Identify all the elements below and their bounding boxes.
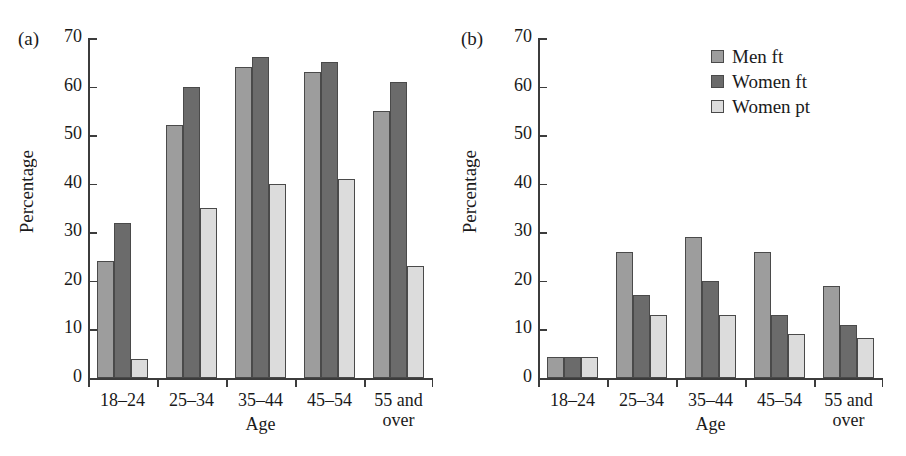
panel-a-y-tick-label: 50 [42, 123, 82, 144]
bar-women-ft [390, 82, 407, 378]
panel-a-y-tick-label: 60 [42, 75, 82, 96]
panel-b-y-tick-label: 70 [492, 26, 532, 47]
panel-b-plot-area: 01020304050607018–2425–3435–4445–5455 an… [453, 0, 906, 456]
bar-women-ft [114, 223, 131, 378]
legend-swatch-icon [711, 75, 724, 88]
panel-a-plot-area: 01020304050607018–2425–3435–4445–5455 an… [0, 0, 453, 456]
bar-women-pt [857, 338, 874, 378]
panel-b-x-tick [745, 380, 747, 387]
legend-item-women-pt: Women pt [711, 94, 810, 119]
panel-a-x-axis-label: Age [201, 414, 321, 435]
bar-women-ft [321, 62, 338, 378]
panel-b-y-tick-label: 60 [492, 75, 532, 96]
panel-b-x-tick [882, 380, 884, 387]
bar-men-ft [754, 252, 771, 378]
panel-a: (a) Percentage 01020304050607018–2425–34… [0, 0, 453, 456]
panel-a-y-tick [90, 38, 97, 40]
legend-item-men-ft: Men ft [711, 44, 810, 69]
panel-b-y-tick-label: 50 [492, 123, 532, 144]
bar-men-ft [304, 72, 321, 378]
bar-men-ft [823, 286, 840, 378]
legend: Men ftWomen ftWomen pt [711, 44, 810, 119]
panel-b-y-tick-label: 0 [492, 366, 532, 387]
panel-b-y-axis [538, 38, 540, 380]
panel-b-x-tick [676, 380, 678, 387]
panel-b-y-tick-label: 40 [492, 172, 532, 193]
bar-women-pt [200, 208, 217, 378]
panel-a-y-tick [90, 232, 97, 234]
bar-men-ft [235, 67, 252, 378]
bar-women-ft [771, 315, 788, 378]
legend-label: Men ft [732, 46, 783, 68]
panel-a-y-tick-label: 40 [42, 172, 82, 193]
panel-b-y-tick [540, 232, 547, 234]
bar-men-ft [685, 237, 702, 378]
bar-men-ft [616, 252, 633, 378]
panel-b-x-tick-label: 55 andover [797, 390, 901, 430]
bar-women-ft [633, 295, 650, 378]
figure-root: (a) Percentage 01020304050607018–2425–34… [0, 0, 906, 456]
bar-women-pt [269, 184, 286, 378]
panel-b-y-tick-label: 10 [492, 317, 532, 338]
panel-a-y-tick [90, 184, 97, 186]
panel-a-y-tick [90, 87, 97, 89]
bar-women-pt [650, 315, 667, 378]
legend-label: Women ft [732, 71, 807, 93]
panel-a-y-tick-label: 20 [42, 269, 82, 290]
panel-a-x-tick-label: 55 andover [347, 390, 451, 430]
panel-b: (b) Percentage 01020304050607018–2425–34… [453, 0, 906, 456]
panel-a-x-tick [432, 380, 434, 387]
bar-women-ft [252, 57, 269, 378]
legend-item-women-ft: Women ft [711, 69, 810, 94]
bar-men-ft [97, 261, 114, 378]
panel-a-y-tick-label: 0 [42, 366, 82, 387]
bar-women-pt [581, 357, 598, 378]
panel-b-x-tick [607, 380, 609, 387]
panel-b-y-tick [540, 378, 547, 380]
bar-women-ft [564, 357, 581, 378]
panel-a-x-tick [226, 380, 228, 387]
panel-a-y-tick [90, 135, 97, 137]
bar-women-pt [719, 315, 736, 378]
panel-b-y-tick [540, 184, 547, 186]
panel-a-y-tick [90, 281, 97, 283]
panel-b-y-tick [540, 329, 547, 331]
panel-a-x-tick [295, 380, 297, 387]
bar-men-ft [547, 357, 564, 378]
bar-women-pt [788, 334, 805, 378]
panel-b-y-tick [540, 135, 547, 137]
bar-women-pt [407, 266, 424, 378]
panel-a-x-axis [88, 378, 433, 380]
panel-b-x-tick-label-line: 55 and [797, 390, 901, 410]
panel-b-y-tick [540, 281, 547, 283]
panel-b-y-tick-label: 30 [492, 220, 532, 241]
bar-men-ft [166, 125, 183, 378]
panel-a-x-tick-label-line: over [347, 410, 451, 430]
bar-men-ft [373, 111, 390, 378]
legend-label: Women pt [732, 96, 810, 118]
panel-b-y-tick [540, 87, 547, 89]
legend-swatch-icon [711, 50, 724, 63]
panel-a-y-tick-label: 70 [42, 26, 82, 47]
panel-b-x-axis [538, 378, 883, 380]
bar-women-ft [183, 87, 200, 378]
panel-b-x-tick [538, 380, 540, 387]
panel-a-x-tick-label-line: 55 and [347, 390, 451, 410]
panel-a-y-tick-label: 10 [42, 317, 82, 338]
panel-b-x-tick [814, 380, 816, 387]
panel-a-y-tick [90, 329, 97, 331]
panel-a-x-tick [157, 380, 159, 387]
panel-a-y-axis [88, 38, 90, 380]
panel-b-y-tick [540, 38, 547, 40]
bar-women-pt [338, 179, 355, 378]
panel-a-y-tick [90, 378, 97, 380]
panel-b-y-tick-label: 20 [492, 269, 532, 290]
bar-women-ft [840, 325, 857, 378]
panel-b-x-tick-label-line: over [797, 410, 901, 430]
legend-swatch-icon [711, 100, 724, 113]
panel-a-x-tick [88, 380, 90, 387]
bar-women-pt [131, 359, 148, 378]
panel-a-y-tick-label: 30 [42, 220, 82, 241]
panel-b-x-axis-label: Age [651, 414, 771, 435]
panel-a-x-tick [364, 380, 366, 387]
